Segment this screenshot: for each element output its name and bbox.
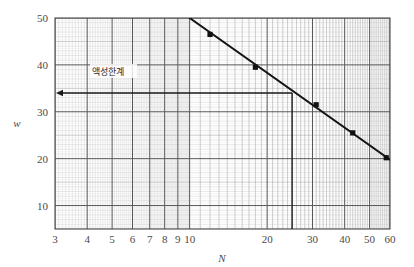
y-tick-label: 50 — [37, 12, 49, 24]
x-tick-label: 60 — [385, 233, 397, 245]
x-tick-label: 10 — [184, 233, 196, 245]
liquid-limit-text-group: 액성한계 — [90, 64, 137, 78]
x-tick-label: 30 — [307, 233, 319, 245]
x-tick-label: 7 — [147, 233, 153, 245]
x-tick-label: 20 — [262, 233, 274, 245]
x-tick-label: 3 — [52, 233, 58, 245]
x-axis-title: N — [217, 252, 226, 264]
x-tick-label: 6 — [130, 233, 136, 245]
y-tick-label: 20 — [37, 153, 49, 165]
y-tick-label: 40 — [37, 59, 49, 71]
x-tick-label: 40 — [339, 233, 351, 245]
y-tick-label: 30 — [37, 106, 49, 118]
x-tick-label: 4 — [84, 233, 90, 245]
x-tick-label: 50 — [364, 233, 376, 245]
y-axis-title: w — [13, 117, 21, 129]
chart-figure: 액성한계 3456789102030405060 1020304050 N w — [0, 0, 414, 267]
x-tick-label: 8 — [162, 233, 168, 245]
x-tick-label: 5 — [109, 233, 115, 245]
x-tick-label: 9 — [175, 233, 181, 245]
y-tick-label: 10 — [37, 200, 49, 212]
liquid-limit-label: 액성한계 — [92, 66, 124, 77]
flow-curve-chart: 액성한계 3456789102030405060 1020304050 N w — [0, 0, 414, 267]
